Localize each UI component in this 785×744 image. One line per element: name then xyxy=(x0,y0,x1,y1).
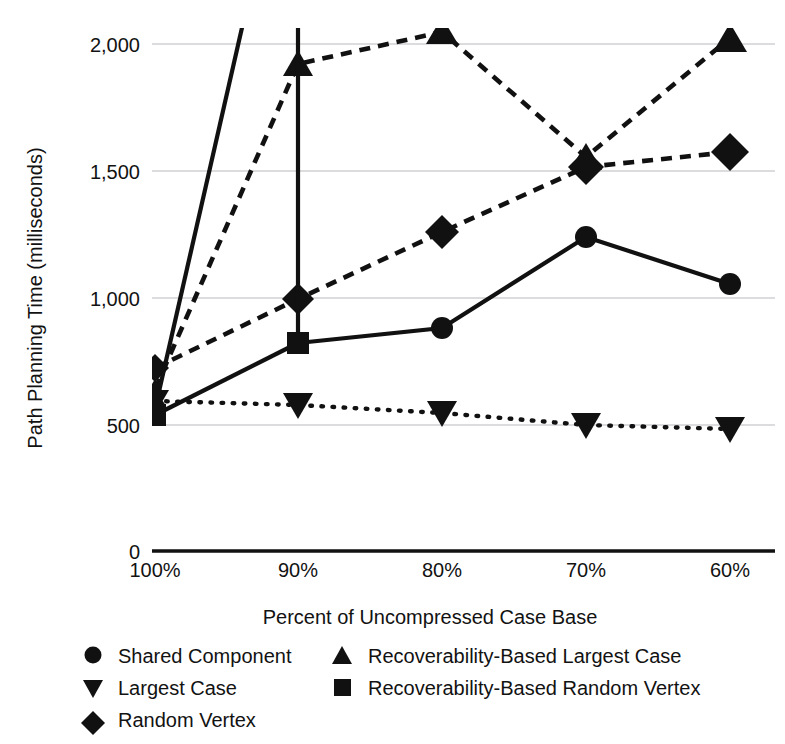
y-tick-label-1000: 1,000 xyxy=(90,288,140,310)
y-tick-label-1500: 1,500 xyxy=(90,161,140,183)
x-tick-label-70: 70% xyxy=(566,559,606,581)
legend-item-recoverability-based-random-vertex[interactable]: Recoverability-Based Random Vertex xyxy=(334,677,700,699)
y-tick-label-2000: 2,000 xyxy=(90,34,140,56)
marker-square xyxy=(287,332,309,354)
y-axis-title: Path Planning Time (milliseconds) xyxy=(24,147,46,448)
legend-item-recoverability-based-largest-case[interactable]: Recoverability-Based Largest Case xyxy=(332,645,682,667)
legend-label-recoverability-based-random-vertex: Recoverability-Based Random Vertex xyxy=(368,677,700,699)
x-tick-label-80: 80% xyxy=(422,559,462,581)
legend-label-largest-case: Largest Case xyxy=(118,677,237,699)
chart-figure: 2,000 1,500 1,000 500 0 Path Planning Ti… xyxy=(0,0,785,744)
legend-label-recoverability-based-largest-case: Recoverability-Based Largest Case xyxy=(368,645,682,667)
x-tick-label-90: 90% xyxy=(278,559,318,581)
legend-label-random-vertex: Random Vertex xyxy=(118,709,256,731)
path-planning-time-line-chart: 2,000 1,500 1,000 500 0 Path Planning Ti… xyxy=(0,0,785,744)
x-tick-label-100: 100% xyxy=(129,559,180,581)
x-tick-label-60: 60% xyxy=(710,559,750,581)
legend-square-icon xyxy=(334,679,351,696)
marker-circle xyxy=(575,226,597,248)
chart-background xyxy=(0,0,785,744)
y-tick-label-500: 500 xyxy=(107,415,140,437)
marker-circle xyxy=(431,317,453,339)
marker-circle xyxy=(719,273,741,295)
x-axis-title: Percent of Uncompressed Case Base xyxy=(263,606,598,628)
legend-label-shared-component: Shared Component xyxy=(118,645,292,667)
legend-circle-icon xyxy=(85,647,102,664)
